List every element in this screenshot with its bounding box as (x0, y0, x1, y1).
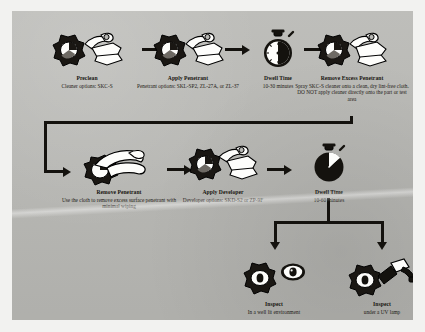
step-apply-developer: Apply Developer Developer options: SKD-S… (164, 141, 282, 203)
step-inspect-visible: Inspect In a well lit environment (224, 253, 324, 315)
gear-hand-wipe-icon (58, 141, 180, 187)
step-dwell-time-2: Dwell Time 10-60 minutes (284, 141, 374, 203)
step-title: Dwell Time (284, 189, 374, 196)
step-title: Inspect (332, 301, 413, 308)
step-body: Spray SKC-S cleaner onto a clean, dry li… (293, 83, 411, 103)
step-body: under a UV lamp (332, 309, 413, 316)
step-remove-excess-penetrant: Remove Excess Penetrant Spray SKC-S clea… (293, 27, 411, 102)
stopwatch-filled-icon (284, 141, 374, 187)
step-title: Inspect (224, 301, 324, 308)
gear-hand-spray-icon (164, 141, 282, 187)
step-inspect-uv: Inspect under a UV lamp (332, 253, 413, 315)
step-title: Remove Excess Penetrant (293, 75, 411, 82)
step-remove-penetrant: Remove Penetrant Use the cloth to remove… (58, 141, 180, 210)
step-title: Apply Developer (164, 189, 282, 196)
gear-hand-cloth-icon (293, 27, 411, 73)
step-body: Use the cloth to remove excess surface p… (58, 197, 180, 210)
gear-uv-lamp-icon (332, 253, 413, 299)
gear-eye-icon (224, 253, 324, 299)
step-body: Developer options: SKD-S2 or ZP-9F (164, 197, 282, 204)
flowchart-board: Preclean Cleaner options: SKC-S (12, 11, 413, 320)
step-body: In a well lit environment (224, 309, 324, 316)
screenshot-canvas: Preclean Cleaner options: SKC-S (0, 0, 425, 332)
step-title: Remove Penetrant (58, 189, 180, 196)
